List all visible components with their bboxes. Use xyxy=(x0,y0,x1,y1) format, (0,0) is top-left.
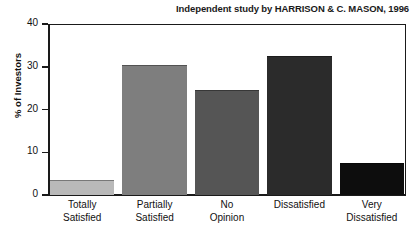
bar xyxy=(267,56,331,195)
bar-slot xyxy=(195,24,259,195)
bar xyxy=(50,180,114,195)
y-tick-mark xyxy=(42,66,48,68)
bar xyxy=(340,163,404,195)
bar-slot xyxy=(50,24,114,195)
x-axis-label-line: Dissatisfied xyxy=(340,212,404,225)
bar-chart: Independent study by HARRISON & C. MASON… xyxy=(0,0,413,239)
y-tick-mark xyxy=(42,109,48,111)
x-axis-label-line: Satisfied xyxy=(50,212,114,225)
y-tick-mark xyxy=(42,23,48,25)
bar xyxy=(195,90,259,195)
x-axis-label-line: Dissatisfied xyxy=(267,199,331,212)
y-tick-label: 10 xyxy=(27,145,38,156)
x-axis-label: Dissatisfied xyxy=(267,199,331,224)
x-axis-label-line: Partially xyxy=(122,199,186,212)
y-tick-mark xyxy=(42,152,48,154)
bar-slot xyxy=(122,24,186,195)
x-axis-labels: TotallySatisfiedPartiallySatisfiedNoOpin… xyxy=(50,199,404,224)
bar xyxy=(122,65,186,195)
x-axis-label-line: No xyxy=(195,199,259,212)
bar-slot xyxy=(340,24,404,195)
x-axis-label-line: Totally xyxy=(50,199,114,212)
y-tick-mark xyxy=(42,194,48,196)
x-axis-label-line: Satisfied xyxy=(122,212,186,225)
bar-series xyxy=(50,24,404,195)
x-axis-label: VeryDissatisfied xyxy=(340,199,404,224)
x-axis-label-line: Opinion xyxy=(195,212,259,225)
y-axis-label: % of Investors xyxy=(12,36,23,136)
chart-title: Independent study by HARRISON & C. MASON… xyxy=(0,3,409,14)
x-axis-label: PartiallySatisfied xyxy=(122,199,186,224)
x-axis-label-line: Very xyxy=(340,199,404,212)
bar-slot xyxy=(267,24,331,195)
y-tick-label: 0 xyxy=(32,188,38,199)
y-tick-label: 30 xyxy=(27,60,38,71)
x-axis-label: NoOpinion xyxy=(195,199,259,224)
y-tick-label: 40 xyxy=(27,17,38,28)
x-axis-label: TotallySatisfied xyxy=(50,199,114,224)
y-tick-label: 20 xyxy=(27,103,38,114)
